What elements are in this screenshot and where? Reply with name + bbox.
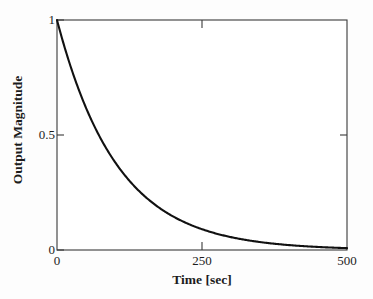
x-tick-label-0: 0 <box>47 253 67 269</box>
x-axis-title: Time [sec] <box>57 272 347 288</box>
y-tick-label-0.5: 0.5 <box>28 127 55 143</box>
y-tick-label-1: 1 <box>43 12 55 28</box>
y-axis-title: Output Magnitude <box>10 76 25 184</box>
figure-canvas: 1 0.5 0 0 250 500 Time [sec] Output Magn… <box>0 0 373 299</box>
x-tick-label-250: 250 <box>184 253 220 269</box>
y-axis-title-wrapper: Output Magnitude <box>8 50 28 210</box>
x-tick-label-500: 500 <box>329 253 365 269</box>
plot-frame-border <box>57 20 347 250</box>
